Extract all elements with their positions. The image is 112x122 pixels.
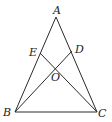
label-d: D xyxy=(74,43,84,56)
segment-ab xyxy=(15,17,56,112)
label-b: B xyxy=(2,106,11,119)
geometry-diagram: A B C E D O xyxy=(0,0,112,122)
segment-ce xyxy=(40,53,97,112)
label-a: A xyxy=(52,4,61,17)
label-c: C xyxy=(98,107,107,120)
segment-bd xyxy=(15,51,72,112)
label-o: O xyxy=(51,71,60,84)
label-e: E xyxy=(28,46,37,59)
segment-ac xyxy=(56,17,97,112)
